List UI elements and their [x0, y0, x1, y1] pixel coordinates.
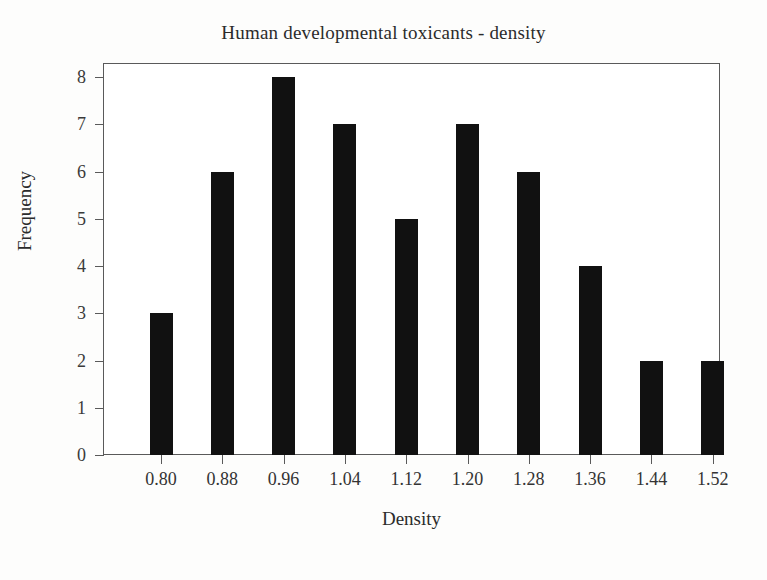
x-tick-mark [345, 455, 346, 464]
x-tick-label: 0.88 [187, 469, 257, 490]
bar [456, 124, 479, 455]
bar [395, 219, 418, 455]
y-tick-label: 0 [50, 445, 86, 466]
x-tick-label: 1.04 [310, 469, 380, 490]
x-tick-mark [161, 455, 162, 464]
x-tick-label: 0.96 [249, 469, 319, 490]
bar [333, 124, 356, 455]
x-tick-label: 1.28 [494, 469, 564, 490]
y-tick-label: 3 [50, 303, 86, 324]
bars-layer [103, 63, 720, 455]
bar [517, 172, 540, 455]
y-tick-label: 2 [50, 350, 86, 371]
x-tick-mark [713, 455, 714, 464]
y-tick-label: 4 [50, 256, 86, 277]
y-tick-label: 5 [50, 208, 86, 229]
bar [640, 361, 663, 455]
x-tick-mark [406, 455, 407, 464]
bar [579, 266, 602, 455]
chart-title: Human developmental toxicants - density [0, 22, 767, 44]
bar [272, 77, 295, 455]
x-axis-title: Density [103, 508, 720, 530]
chart-page: Human developmental toxicants - density … [0, 0, 767, 580]
x-tick-mark [590, 455, 591, 464]
x-tick-label: 1.20 [433, 469, 503, 490]
x-tick-label: 1.12 [371, 469, 441, 490]
y-axis-title: Frequency [14, 131, 36, 291]
y-tick-mark [95, 455, 104, 456]
y-tick-label: 6 [50, 161, 86, 182]
x-tick-mark [529, 455, 530, 464]
x-tick-label: 0.80 [126, 469, 196, 490]
y-tick-label: 1 [50, 397, 86, 418]
x-tick-label: 1.52 [678, 469, 748, 490]
x-tick-label: 1.36 [555, 469, 625, 490]
y-tick-label: 8 [50, 67, 86, 88]
x-tick-mark [222, 455, 223, 464]
x-tick-mark [468, 455, 469, 464]
x-tick-label: 1.44 [616, 469, 686, 490]
bar [211, 172, 234, 455]
y-tick-label: 7 [50, 114, 86, 135]
bar [701, 361, 724, 455]
bar [150, 313, 173, 455]
x-tick-mark [651, 455, 652, 464]
x-tick-mark [284, 455, 285, 464]
